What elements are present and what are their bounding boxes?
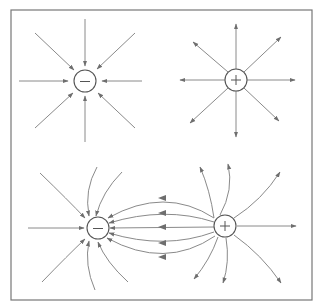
- dipole-field: [28, 164, 296, 290]
- positive-charge-field: [180, 24, 295, 137]
- negative-charge-field: [19, 19, 142, 142]
- electric-field-diagram: [0, 0, 322, 308]
